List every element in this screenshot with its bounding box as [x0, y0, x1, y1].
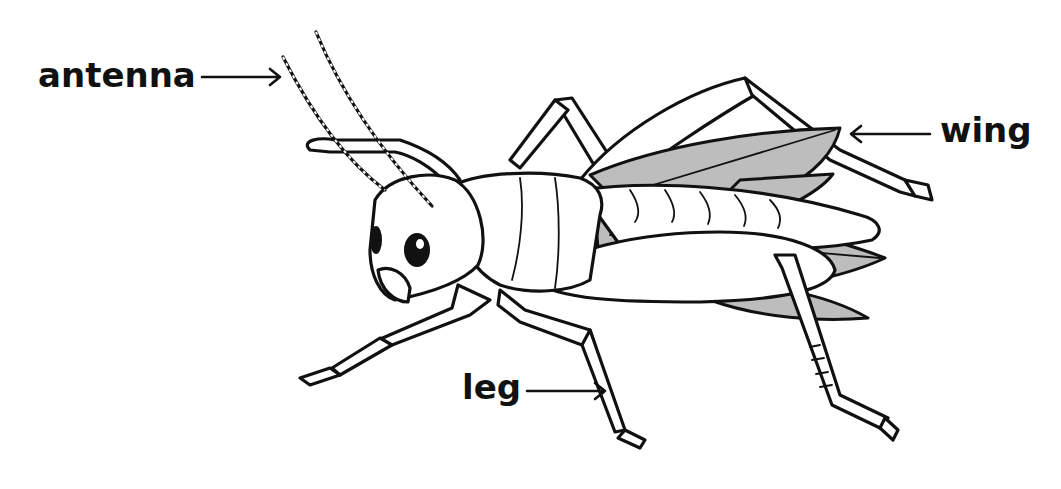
label-wing: wing: [940, 113, 1032, 147]
label-antenna: antenna: [38, 58, 196, 92]
antennae: [283, 32, 432, 206]
hind-leg-lower: [775, 255, 898, 440]
leg-arrow: [527, 383, 605, 399]
eye-near: [404, 233, 430, 267]
head: [370, 175, 483, 302]
label-leg: leg: [462, 370, 521, 404]
wing-arrow: [851, 126, 930, 142]
antenna-arrow: [202, 69, 280, 85]
eye-far: [370, 226, 382, 254]
